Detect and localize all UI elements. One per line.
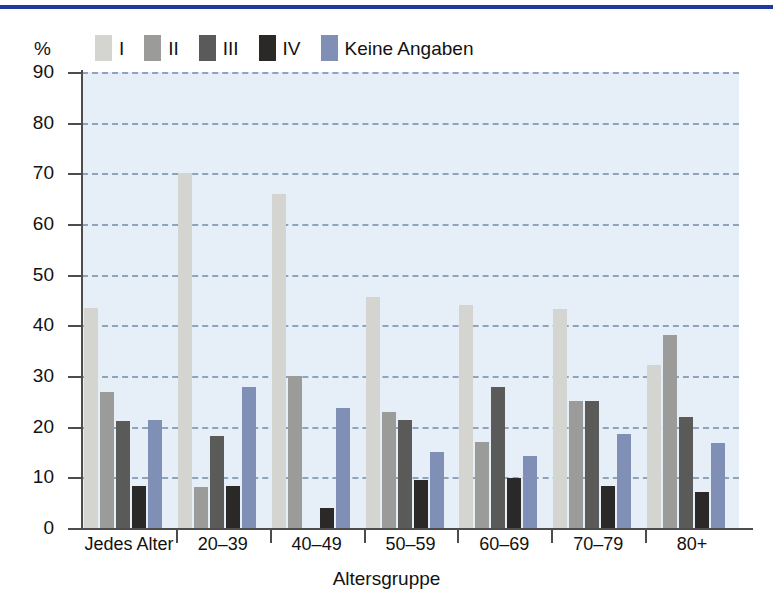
y-axis-line <box>81 70 83 530</box>
bar-20–39-i[interactable] <box>178 173 192 528</box>
legend-item-4[interactable]: IV <box>259 35 301 61</box>
bar-70–79-ii[interactable] <box>569 401 583 528</box>
x-axis-title: Altersgruppe <box>0 568 773 590</box>
bar-70–79-keine-angaben[interactable] <box>617 434 631 528</box>
y-tick-label-40: 40 <box>20 315 54 334</box>
legend-item-2[interactable]: II <box>144 35 179 61</box>
y-axis-unit-label: % <box>34 39 51 58</box>
x-tick-label-3: 50–59 <box>364 535 458 553</box>
plot-area <box>82 72 739 528</box>
y-tick-mark-80 <box>68 123 82 125</box>
bar-60–69-iii[interactable] <box>491 387 505 528</box>
bar-jedes-alter-i[interactable] <box>84 308 98 528</box>
y-tick-mark-30 <box>68 376 82 378</box>
bar-60–69-iv[interactable] <box>507 478 521 528</box>
bar-70–79-i[interactable] <box>553 309 567 528</box>
bar-80+-iii[interactable] <box>679 417 693 528</box>
bar-70–79-iii[interactable] <box>585 401 599 528</box>
legend-swatch-icon <box>321 35 338 61</box>
bar-jedes-alter-iii[interactable] <box>116 421 130 528</box>
chart-figure: % IIIIIIIVKeine Angaben 0102030405060708… <box>0 0 773 612</box>
legend-swatch-icon <box>199 35 216 61</box>
y-tick-label-50: 50 <box>20 265 54 284</box>
bar-40–49-i[interactable] <box>272 194 286 528</box>
y-tick-mark-70 <box>68 173 82 175</box>
y-tick-label-70: 70 <box>20 163 54 182</box>
x-tick-label-5: 70–79 <box>551 535 645 553</box>
bar-80+-keine-angaben[interactable] <box>711 443 725 528</box>
bar-20–39-iv[interactable] <box>226 486 240 528</box>
y-tick-mark-60 <box>68 224 82 226</box>
legend-item-label: III <box>223 39 239 58</box>
bar-40–49-keine-angaben[interactable] <box>336 408 350 528</box>
x-axis-line <box>68 528 753 530</box>
bar-jedes-alter-ii[interactable] <box>100 392 114 528</box>
bar-40–49-ii[interactable] <box>288 376 302 529</box>
bar-20–39-ii[interactable] <box>194 487 208 528</box>
x-tick-label-4: 60–69 <box>457 535 551 553</box>
bar-70–79-iv[interactable] <box>601 486 615 528</box>
y-tick-label-60: 60 <box>20 214 54 233</box>
gridline-90 <box>82 72 739 74</box>
x-tick-label-6: 80+ <box>645 535 739 553</box>
x-tick-label-1: 20–39 <box>176 535 270 553</box>
bar-60–69-i[interactable] <box>459 305 473 528</box>
y-tick-mark-40 <box>68 325 82 327</box>
bar-60–69-keine-angaben[interactable] <box>523 456 537 528</box>
plot-wrap <box>82 72 739 528</box>
legend-item-3[interactable]: III <box>199 35 239 61</box>
gridline-80 <box>82 123 739 125</box>
y-tick-label-0: 0 <box>20 518 54 537</box>
y-tick-label-90: 90 <box>20 62 54 81</box>
y-tick-mark-0 <box>68 528 82 530</box>
y-tick-label-10: 10 <box>20 467 54 486</box>
legend-item-label: Keine Angaben <box>345 39 474 58</box>
legend-swatch-icon <box>95 35 112 61</box>
bar-80+-i[interactable] <box>647 365 661 528</box>
legend-items: IIIIIIIVKeine Angaben <box>95 35 494 61</box>
bar-50–59-iv[interactable] <box>414 480 428 528</box>
bar-jedes-alter-keine-angaben[interactable] <box>148 420 162 528</box>
bar-50–59-keine-angaben[interactable] <box>430 452 444 529</box>
bar-60–69-ii[interactable] <box>475 442 489 528</box>
bar-50–59-i[interactable] <box>366 297 380 528</box>
top-divider-rule <box>0 5 773 9</box>
legend-item-1[interactable]: I <box>95 35 124 61</box>
bar-50–59-iii[interactable] <box>398 420 412 528</box>
y-tick-label-30: 30 <box>20 366 54 385</box>
y-tick-mark-20 <box>68 427 82 429</box>
legend-item-label: IV <box>283 39 301 58</box>
x-tick-label-0: Jedes Alter <box>82 535 176 553</box>
bar-80+-iv[interactable] <box>695 492 709 528</box>
legend-item-label: II <box>168 39 179 58</box>
bar-jedes-alter-iv[interactable] <box>132 486 146 528</box>
legend-item-label: I <box>119 39 124 58</box>
y-tick-mark-10 <box>68 477 82 479</box>
bar-80+-ii[interactable] <box>663 335 677 528</box>
bar-50–59-ii[interactable] <box>382 412 396 528</box>
bar-20–39-iii[interactable] <box>210 436 224 528</box>
y-tick-label-80: 80 <box>20 113 54 132</box>
y-tick-mark-50 <box>68 275 82 277</box>
legend-swatch-icon <box>144 35 161 61</box>
y-tick-label-20: 20 <box>20 417 54 436</box>
chart-legend: % IIIIIIIVKeine Angaben <box>34 34 493 62</box>
x-tick-label-2: 40–49 <box>270 535 364 553</box>
bar-20–39-keine-angaben[interactable] <box>242 387 256 528</box>
legend-item-5[interactable]: Keine Angaben <box>321 35 474 61</box>
legend-swatch-icon <box>259 35 276 61</box>
bar-40–49-iv[interactable] <box>320 508 334 528</box>
y-tick-mark-90 <box>68 72 82 74</box>
